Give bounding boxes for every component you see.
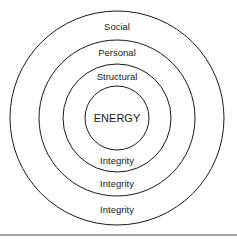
label-integrity-personal: Integrity xyxy=(100,178,134,189)
label-social: Social xyxy=(104,21,130,32)
label-integrity-structural: Integrity xyxy=(100,155,134,166)
concentric-diagram: Social Personal Structural ENERGY Integr… xyxy=(0,0,237,239)
label-energy: ENERGY xyxy=(94,112,141,124)
label-personal: Personal xyxy=(98,47,136,58)
label-structural: Structural xyxy=(97,71,138,82)
label-integrity-social: Integrity xyxy=(100,204,134,215)
